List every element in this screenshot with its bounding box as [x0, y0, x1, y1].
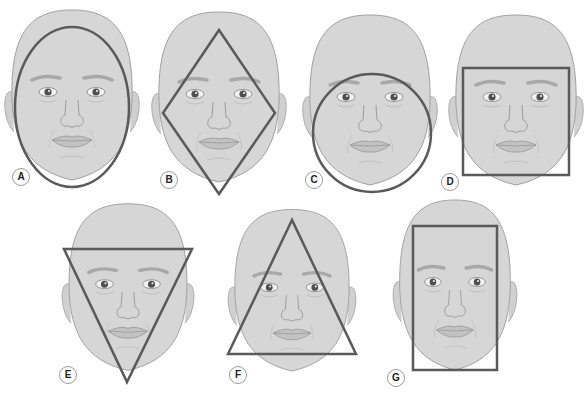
label-c: C [305, 171, 323, 189]
face-d-square [449, 15, 584, 185]
face-a-oval [5, 10, 140, 187]
label-f: F [229, 366, 247, 384]
face-f-triangle [228, 210, 356, 372]
face-shapes-diagram [0, 0, 586, 394]
label-g: G [387, 369, 405, 387]
face-b-diamond [152, 12, 287, 194]
label-d: D [441, 173, 459, 191]
label-e: E [59, 366, 77, 384]
face-e-inverted-triangle [62, 204, 194, 382]
face-g-rectangle [393, 200, 517, 370]
label-a: A [12, 168, 30, 186]
face-c-round [303, 15, 438, 192]
label-b: B [160, 171, 178, 189]
